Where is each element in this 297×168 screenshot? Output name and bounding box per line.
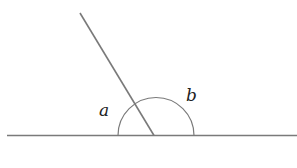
- angle-diagram: a b: [0, 0, 297, 168]
- angle-label-a: a: [99, 100, 109, 120]
- angle-label-b: b: [186, 85, 197, 105]
- angle-arc: [118, 98, 194, 136]
- slanted-ray: [80, 13, 154, 136]
